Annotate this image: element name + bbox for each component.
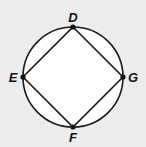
- circle: [23, 27, 123, 127]
- label-g: G: [128, 70, 138, 85]
- label-d: D: [68, 10, 78, 25]
- point-e: [20, 74, 25, 79]
- label-f: F: [69, 130, 78, 145]
- label-e: E: [9, 70, 18, 85]
- circle-diagram: D E G F: [0, 0, 146, 147]
- point-d: [70, 24, 75, 29]
- point-f: [70, 124, 75, 129]
- point-g: [120, 74, 125, 79]
